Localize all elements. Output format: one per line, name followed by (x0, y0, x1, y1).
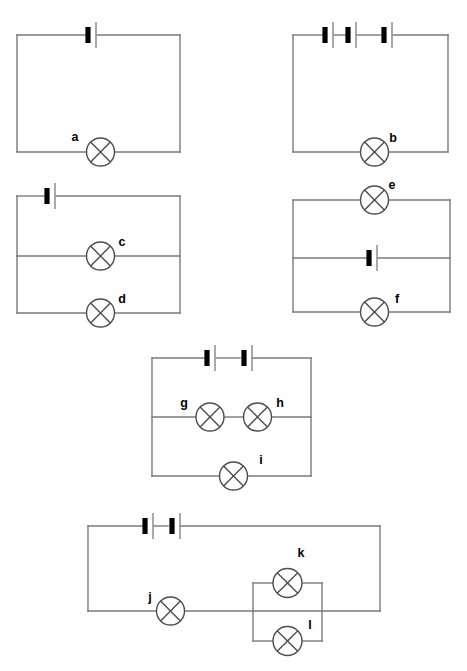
lamp-d (87, 299, 115, 327)
lamp-b (361, 138, 389, 166)
lamp-k (273, 569, 302, 598)
battery-cell-6b (172, 513, 180, 539)
battery-cell-2c (384, 22, 392, 48)
lamp-f (361, 298, 389, 326)
lamp-label-c: c (119, 235, 126, 249)
lamp-h (244, 403, 272, 431)
circuit-1-simple-series: a (17, 22, 180, 166)
circuit-4-cell-middle: e f (293, 178, 450, 326)
battery-cell-5a (207, 345, 215, 371)
lamp-label-d: d (118, 292, 126, 306)
lamp-i (220, 462, 248, 490)
battery-cell-5b (244, 345, 252, 371)
circuit-2-three-cells: b (293, 22, 448, 166)
lamp-label-b: b (389, 131, 397, 145)
battery-cell-2a (325, 22, 333, 48)
lamp-a (87, 138, 115, 166)
lamp-l (273, 627, 302, 656)
battery-cell-3 (47, 183, 55, 209)
lamp-label-k: k (298, 546, 305, 560)
lamp-label-e: e (389, 178, 396, 192)
battery-cell-1 (88, 22, 96, 48)
circuit-3-parallel-lamps: c d (17, 183, 180, 327)
lamp-label-f: f (395, 292, 400, 306)
circuit-5-series-pair-parallel: g h i (152, 345, 311, 490)
lamp-label-h: h (276, 396, 284, 410)
battery-cell-2b (348, 22, 356, 48)
lamp-e (361, 186, 389, 214)
lamp-label-g: g (180, 396, 188, 410)
circuit-6-series-with-parallel-pair: j k l (88, 513, 380, 656)
lamp-label-a: a (72, 130, 80, 144)
circuit-diagram-sheet: a b (0, 0, 467, 671)
lamp-j (157, 597, 185, 625)
lamp-label-j: j (147, 590, 151, 604)
lamp-c (87, 242, 115, 270)
lamp-label-l: l (308, 618, 311, 632)
battery-cell-6a (145, 513, 153, 539)
lamp-g (196, 403, 224, 431)
battery-cell-4 (369, 245, 377, 271)
lamp-label-i: i (259, 453, 262, 467)
circuit-canvas: a b (0, 0, 467, 671)
